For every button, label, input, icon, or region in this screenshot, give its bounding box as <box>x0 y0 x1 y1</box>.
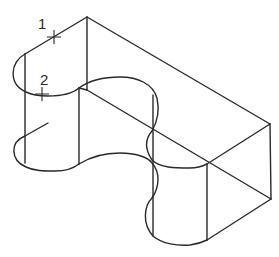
wireframe-drawing <box>0 0 279 257</box>
edge-vertical-back-right <box>270 124 271 199</box>
edge-left-inner-diag <box>25 123 48 136</box>
crosshair-point-2 <box>35 87 49 101</box>
curve-notch-bottom <box>79 153 207 245</box>
edge-bottom-right <box>207 199 271 240</box>
crosshair-point-1 <box>47 30 61 44</box>
edge-inner-diagonal <box>87 90 271 199</box>
edge-top-left <box>25 17 87 54</box>
point-label-2: 2 <box>40 72 48 87</box>
edge-top-back <box>87 17 270 124</box>
edge-front-right-top <box>207 124 270 164</box>
edge-inner-left-short <box>79 88 87 90</box>
point-label-1: 1 <box>38 16 46 31</box>
curve-left-end-bottom <box>14 136 79 171</box>
